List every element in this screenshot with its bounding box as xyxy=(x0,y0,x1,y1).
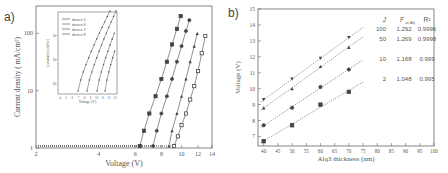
y-axis-label: Voltage (V) xyxy=(234,60,242,93)
data-point xyxy=(170,129,173,132)
table-cell: 1.048 xyxy=(396,76,412,82)
series-line xyxy=(140,16,181,146)
data-point xyxy=(175,112,178,115)
table-cell: 0.999 xyxy=(419,56,435,62)
y-tick-label: 100 xyxy=(24,30,33,36)
data-point xyxy=(175,27,178,30)
y-tick-label: 14 xyxy=(250,22,256,28)
data-point xyxy=(142,129,145,132)
x-tick-label: 40 xyxy=(261,148,267,154)
data-point xyxy=(175,60,178,63)
inset-legend-item: device 6 xyxy=(72,23,85,27)
x-tick-label: 8 xyxy=(160,151,163,157)
table-cell: 100 xyxy=(376,26,387,32)
svg-text:av, Alq: av, Alq xyxy=(405,21,415,25)
data-point xyxy=(262,140,265,143)
x-tick-label: 95 xyxy=(417,148,423,154)
data-point xyxy=(148,112,151,115)
panel-b-label: b) xyxy=(228,6,239,20)
x-tick-label: 12 xyxy=(195,151,201,157)
y-tick-label: 13 xyxy=(250,38,256,44)
data-point xyxy=(319,103,322,106)
y-tick-label: 1 xyxy=(30,145,33,151)
data-point xyxy=(154,95,157,98)
chart-b: 4045505560657075808590951007891011121314… xyxy=(224,0,448,173)
data-point xyxy=(180,44,183,47)
table-cell: 1.168 xyxy=(396,56,412,62)
data-point xyxy=(347,46,350,49)
inset-x-tick: 9 xyxy=(90,96,92,100)
data-point xyxy=(179,14,182,17)
fit-line xyxy=(261,37,363,110)
data-point xyxy=(165,95,168,98)
x-tick-label: 2 xyxy=(35,151,38,157)
y-axis-label: Current density ( mA/cm²) xyxy=(13,37,22,117)
data-point xyxy=(262,106,265,109)
data-point xyxy=(180,124,183,127)
x-tick-label: 55 xyxy=(304,148,310,154)
table-cell: 1.292 xyxy=(396,26,412,32)
data-point xyxy=(172,144,175,147)
inset-y-label: Luminance (cd/m²) xyxy=(46,38,50,67)
y-tick-label: 8 xyxy=(252,118,255,124)
x-tick-label: 14 xyxy=(209,151,215,157)
x-tick-label: 50 xyxy=(289,148,295,154)
y-tick-label: 10 xyxy=(250,86,256,92)
inset-x-tick: 12 xyxy=(107,96,111,100)
data-point xyxy=(184,29,187,32)
x-tick-label: 80 xyxy=(375,148,381,154)
data-point xyxy=(184,77,187,80)
x-tick-label: 60 xyxy=(318,148,324,154)
data-point xyxy=(290,106,293,109)
x-tick-label: 45 xyxy=(275,148,281,154)
inset-x-tick: 4 xyxy=(59,96,61,100)
table-cell: 10 xyxy=(379,56,386,62)
table-header: J xyxy=(382,16,387,23)
chart-a: 2468101214110100Voltage (V)Current densi… xyxy=(0,0,224,173)
x-axis-label: Voltage (V) xyxy=(105,159,143,168)
table-cell: 50 xyxy=(379,36,386,42)
inset-legend-item: device 8 xyxy=(72,33,85,37)
table-header: F xyxy=(400,16,405,23)
data-point xyxy=(170,77,173,80)
inset-y-tick: 10³ xyxy=(52,34,57,38)
table-header: R² xyxy=(424,16,432,23)
data-point xyxy=(193,85,196,88)
inset-x-tick: 10 xyxy=(95,96,99,100)
y-tick-label: 10 xyxy=(27,88,33,94)
data-point xyxy=(347,36,350,39)
panel-a: a) 2468101214110100Voltage (V)Current de… xyxy=(0,0,224,173)
inset-x-tick: 7 xyxy=(78,96,80,100)
x-tick-label: 65 xyxy=(332,148,338,154)
data-point xyxy=(155,129,158,132)
data-point xyxy=(200,52,203,55)
table-cell: 0.995 xyxy=(419,76,435,82)
y-tick-label: 9 xyxy=(252,102,255,108)
table-cell: 2 xyxy=(383,76,387,82)
inset-x-tick: 11 xyxy=(101,96,104,100)
data-point xyxy=(176,135,179,138)
data-point xyxy=(189,98,192,101)
x-tick-label: 10 xyxy=(179,151,185,157)
inset-x-tick: 5 xyxy=(65,96,67,100)
inset-x-tick: 8 xyxy=(84,96,86,100)
data-point xyxy=(160,77,163,80)
inset-y-tick: 10² xyxy=(52,58,57,62)
data-point xyxy=(290,124,293,127)
inset-x-tick: 6 xyxy=(71,96,73,100)
x-tick-label: 4 xyxy=(97,151,100,157)
series-line xyxy=(153,20,189,146)
data-point xyxy=(189,60,192,63)
inset-x-label: Voltage (V) xyxy=(79,100,97,104)
table-cell: 0.9996 xyxy=(418,26,437,32)
data-point xyxy=(347,68,350,71)
data-point xyxy=(160,112,163,115)
data-point xyxy=(262,124,265,127)
data-point xyxy=(170,43,173,46)
table-cell: 0.9998 xyxy=(418,36,437,42)
y-tick-label: 12 xyxy=(250,54,256,60)
inset-legend-item: device 7 xyxy=(72,28,85,32)
x-tick-label: 90 xyxy=(403,148,409,154)
panel-b: b) 4045505560657075808590951007891011121… xyxy=(224,0,448,173)
x-tick-label: 100 xyxy=(430,148,438,154)
